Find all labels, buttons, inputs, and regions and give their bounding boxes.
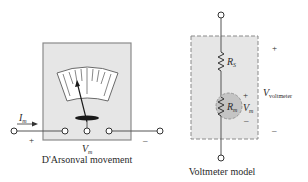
darsonval-movement: Im + – Vm D'Arsonval movement <box>11 43 163 165</box>
voltmeter-model: RS Rm + Vm – + Vvoltmeter – Voltmeter mo… <box>189 12 292 177</box>
left-minus-sign: – <box>142 135 148 145</box>
voltmeter-model-caption: Voltmeter model <box>189 166 256 177</box>
vvoltmeter-label: Vvoltmeter <box>263 87 292 99</box>
needle-pivot <box>75 116 99 121</box>
darsonval-caption: D'Arsonval movement <box>42 154 133 165</box>
outer-minus-sign: – <box>271 125 277 135</box>
housing-terminal-2 <box>84 128 90 134</box>
rm-minus-sign: – <box>243 115 249 125</box>
outer-plus-sign: + <box>272 43 277 53</box>
housing-terminal-1 <box>62 128 68 134</box>
left-plus-sign: + <box>29 135 34 145</box>
right-outer-terminal <box>157 128 163 134</box>
current-arrowhead-icon <box>32 122 38 127</box>
bottom-terminal <box>218 155 224 161</box>
top-terminal <box>218 12 224 18</box>
left-outer-terminal <box>11 128 17 134</box>
housing-terminal-3 <box>106 128 112 134</box>
current-label: Im <box>18 112 27 124</box>
rm-plus-sign: + <box>243 90 248 100</box>
diagram-canvas: Im + – Vm D'Arsonval movement RS Rm + Vm… <box>0 0 308 182</box>
